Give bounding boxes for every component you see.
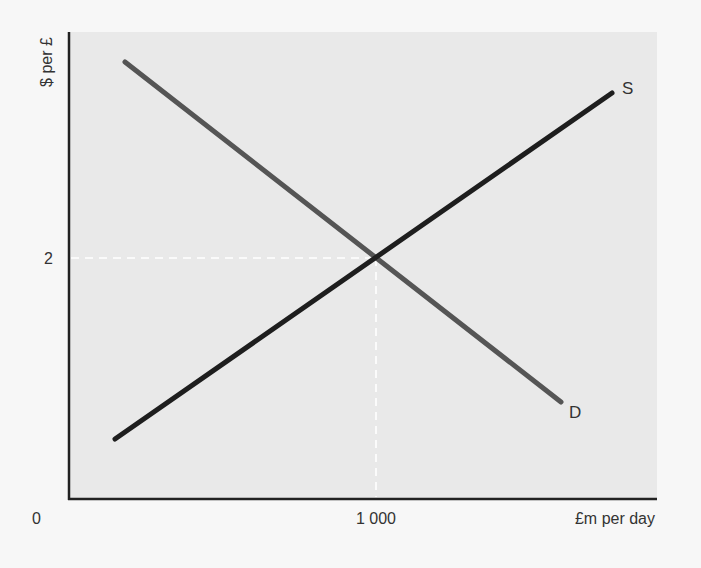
y-axis-label: $ per £ [38,37,55,87]
x-axis-label: £m per day [575,510,655,527]
y-tick-label: 2 [44,250,53,267]
supply-label: S [622,79,633,98]
x-tick-label: 1 000 [356,510,396,527]
origin-label: 0 [32,510,41,527]
demand-label: D [569,403,581,422]
supply-demand-chart: S D 2 0 1 000 £m per day $ per £ [0,0,701,568]
